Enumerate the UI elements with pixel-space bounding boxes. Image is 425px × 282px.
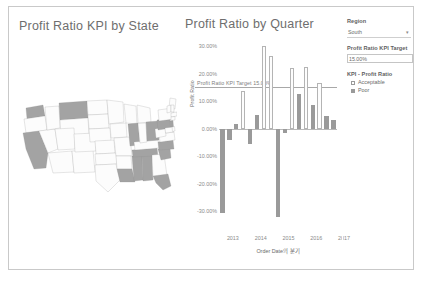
bar-2014-Q1[interactable] <box>248 129 252 144</box>
state-NE[interactable] <box>89 128 111 142</box>
region-filter-label: Region <box>347 18 366 24</box>
state-NJ[interactable] <box>170 121 174 128</box>
state-AL[interactable] <box>142 155 153 181</box>
state-LA[interactable] <box>117 169 135 182</box>
map-panel-title: Profit Ratio KPI by State <box>19 19 159 33</box>
bar-2013-Q4[interactable] <box>241 91 245 128</box>
state-ID[interactable] <box>45 106 60 130</box>
x-axis-tick: 2016 <box>310 235 322 241</box>
state-WI[interactable] <box>124 104 137 124</box>
region-filter-underline <box>347 37 411 38</box>
chart-panel: Profit Ratio by Quarter Profit Ratio 30.… <box>177 7 342 269</box>
kpi-target-label: Profit Ratio KPI Target <box>347 45 407 51</box>
bar-2014-Q2[interactable] <box>255 115 259 129</box>
y-axis-tick: 0.00% <box>179 126 217 132</box>
state-MI[interactable] <box>137 105 151 123</box>
x-axis-tick: 2015 <box>282 235 294 241</box>
bar-2016-Q4[interactable] <box>324 116 328 128</box>
bar-2015-Q3[interactable] <box>290 68 294 129</box>
state-AR[interactable] <box>116 156 132 169</box>
y-axis-tick: -20.00% <box>179 181 217 187</box>
state-VT[interactable] <box>167 105 171 113</box>
region-filter-value[interactable]: South <box>348 29 362 35</box>
kpi-target-reference-label: Profit Ratio KPI Target 15.00% <box>197 80 272 86</box>
us-choropleth-map[interactable] <box>17 89 177 197</box>
bar-2013-Q3[interactable] <box>234 124 238 129</box>
state-FL[interactable] <box>153 174 171 190</box>
state-IA[interactable] <box>110 123 127 138</box>
y-axis-tick: 20.00% <box>179 71 217 77</box>
kpi-target-input-value[interactable]: 15.00% <box>349 56 367 62</box>
kpi-legend-title: KPI - Profit Ratio <box>347 71 392 77</box>
state-MS[interactable] <box>132 156 143 181</box>
controls-panel: Region South ▾ Profit Ratio KPI Target 1… <box>343 7 415 269</box>
state-MO[interactable] <box>114 137 132 156</box>
y-axis-tick: -10.00% <box>179 153 217 159</box>
bar-plot-area[interactable]: Profit Ratio KPI Target 15.00% <box>219 35 337 225</box>
y-axis-tick: -30.00% <box>179 208 217 214</box>
state-MN[interactable] <box>107 100 124 124</box>
state-AZ[interactable] <box>48 151 74 173</box>
bar-2013-Q2[interactable] <box>227 129 231 140</box>
dashboard-container: Profit Ratio KPI by State <box>8 6 414 270</box>
state-DE[interactable] <box>172 127 175 132</box>
x-axis-tick: 2014 <box>255 235 267 241</box>
state-NH[interactable] <box>171 105 174 112</box>
map-states-group <box>23 98 177 192</box>
bar-2017-Q1[interactable] <box>331 120 335 128</box>
y-axis-ticks: 30.00%20.00%10.00%0.00%-10.00%-20.00%-30… <box>177 7 217 237</box>
bar-2016-Q3[interactable] <box>317 83 321 128</box>
legend-label-poor[interactable]: Poor <box>358 87 369 93</box>
bar-2016-Q1[interactable] <box>304 67 308 129</box>
state-ND[interactable] <box>87 100 108 115</box>
state-UT[interactable] <box>55 128 75 150</box>
state-NM[interactable] <box>72 150 95 173</box>
x-axis-title: Order Date의 분기 <box>219 247 337 255</box>
x-axis-ticks: 20132014201520162017 <box>219 235 337 245</box>
bar-2014-Q4[interactable] <box>269 56 273 129</box>
bar-2016-Q2[interactable] <box>311 105 315 128</box>
state-MT[interactable] <box>59 101 88 120</box>
state-CT[interactable] <box>171 117 175 121</box>
state-OK[interactable] <box>95 153 117 165</box>
bar-2014-Q3[interactable] <box>262 46 266 129</box>
bar-2013-Q1[interactable] <box>220 129 224 213</box>
y-axis-tick: 10.00% <box>179 98 217 104</box>
state-TX[interactable] <box>95 164 120 192</box>
bar-2015-Q1[interactable] <box>276 129 280 217</box>
legend-swatch-acceptable[interactable] <box>351 81 355 85</box>
bar-2015-Q2[interactable] <box>283 129 287 133</box>
y-axis-tick: 30.00% <box>179 43 217 49</box>
map-panel: Profit Ratio KPI by State <box>9 7 184 269</box>
legend-swatch-poor[interactable] <box>351 89 355 93</box>
legend-label-acceptable[interactable]: Acceptable <box>358 79 385 85</box>
state-KS[interactable] <box>95 140 115 154</box>
x-axis-tick: 2013 <box>227 235 239 241</box>
state-SD[interactable] <box>88 114 109 129</box>
chevron-down-icon[interactable]: ▾ <box>406 29 409 35</box>
bar-2015-Q4[interactable] <box>297 94 301 128</box>
